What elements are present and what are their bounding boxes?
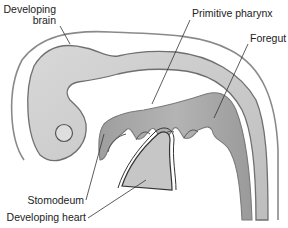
- leader-stomodeum: [86, 134, 104, 200]
- label-foregut: Foregut: [250, 33, 286, 44]
- foregut-pharynx: [99, 93, 252, 220]
- label-primitive-pharynx: Primitive pharynx: [192, 8, 273, 19]
- label-stomodeum: Stomodeum: [10, 195, 84, 206]
- optic-vesicle: [56, 125, 73, 142]
- label-developing-brain-line2: brain: [2, 15, 56, 26]
- leader-developing-heart: [88, 180, 146, 218]
- label-developing-brain: Developing brain: [2, 4, 56, 26]
- label-developing-heart: Developing heart: [0, 212, 86, 223]
